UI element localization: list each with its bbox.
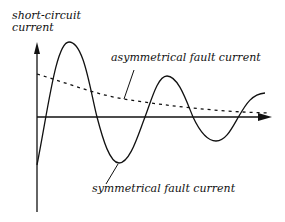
asymmetrical-label: asymmetrical fault current bbox=[111, 52, 261, 64]
x-axis-arrow-icon bbox=[258, 113, 272, 121]
symmetrical-leader-line bbox=[106, 164, 118, 184]
y-axis-label-line2: current bbox=[12, 22, 54, 34]
asymmetrical-leader-line bbox=[124, 70, 134, 99]
symmetrical-label: symmetrical fault current bbox=[92, 183, 235, 195]
y-axis-arrow-icon bbox=[34, 42, 40, 54]
